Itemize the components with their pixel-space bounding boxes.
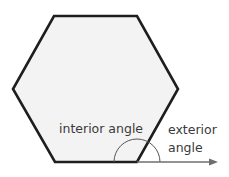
interior-angle-label: interior angle <box>59 121 143 136</box>
exterior-angle-label-line2: angle <box>168 140 203 155</box>
arrowhead-icon <box>209 159 218 166</box>
hexagon-angle-diagram: interior angle exterior angle <box>0 0 229 177</box>
hexagon <box>13 16 178 162</box>
exterior-angle-label-line1: exterior <box>168 122 218 137</box>
